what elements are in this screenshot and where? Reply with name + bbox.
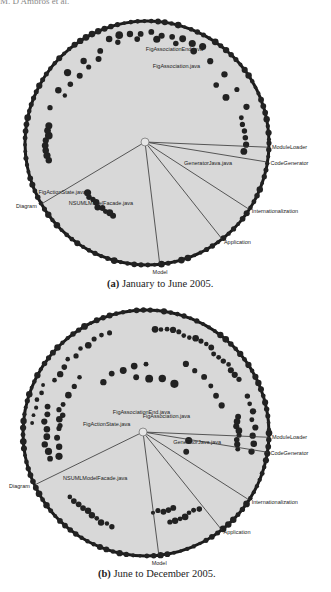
caption-b-text: June to December 2005. [113, 568, 215, 579]
rim-node [264, 406, 269, 411]
file-label: NSUMLModelFacade.java [69, 200, 134, 206]
file-node [170, 327, 176, 333]
file-node [148, 29, 154, 35]
file-node [100, 379, 106, 385]
file-node [247, 401, 252, 406]
file-node [213, 393, 219, 399]
file-node [41, 418, 47, 424]
rim-node [20, 438, 27, 445]
rim-node [218, 43, 223, 48]
module-label: Internationalization [252, 208, 298, 214]
rim-node [52, 61, 56, 65]
rim-node [236, 222, 240, 226]
file-node [77, 73, 83, 79]
rim-node [89, 31, 96, 38]
rim-node [231, 226, 236, 231]
rim-node [215, 531, 220, 536]
rim-node [89, 321, 93, 325]
hub-node [139, 428, 147, 436]
file-node [45, 404, 51, 410]
rim-node [32, 189, 37, 194]
rim-node [108, 24, 114, 30]
rim-node [83, 34, 90, 41]
rim-node [185, 255, 192, 262]
file-node [56, 407, 61, 412]
rim-node [203, 538, 208, 543]
rim-node [31, 95, 36, 100]
rim-node [262, 174, 267, 179]
file-node [183, 361, 189, 367]
rim-node [263, 168, 268, 173]
rim-node [265, 444, 271, 450]
rim-node [251, 199, 256, 204]
file-node [252, 424, 258, 430]
rim-node [138, 262, 143, 267]
rim-node [21, 445, 27, 451]
file-node [198, 338, 203, 343]
rim-node [40, 497, 45, 502]
rim-node [266, 437, 271, 442]
rim-node [134, 308, 140, 314]
rim-node [23, 150, 27, 154]
rim-node [250, 368, 255, 373]
file-label: FigAssociation.java [143, 413, 191, 419]
rim-node [162, 19, 168, 25]
file-node [159, 33, 165, 39]
file-node [120, 367, 127, 374]
rim-node [22, 412, 26, 416]
rim-node [175, 312, 180, 317]
rim-node [68, 527, 74, 533]
file-node [216, 355, 221, 360]
file-node [133, 374, 139, 380]
rim-node [209, 534, 215, 540]
rim-node [254, 193, 259, 198]
file-node [160, 509, 166, 515]
file-label: NSUMLModelFacade.java [63, 475, 128, 481]
file-node [240, 148, 247, 155]
file-node [32, 413, 36, 417]
rim-node [129, 20, 134, 25]
rim-node [208, 36, 212, 40]
file-node [219, 402, 225, 408]
rim-node [250, 79, 254, 83]
rim-node [23, 453, 27, 457]
module-label: Application [224, 239, 251, 245]
file-node [159, 375, 166, 382]
file-node [221, 358, 226, 363]
rim-node [161, 308, 167, 314]
file-node [94, 516, 99, 521]
file-node [234, 87, 239, 92]
rim-node [26, 466, 31, 471]
rim-node [266, 155, 270, 159]
rim-node [30, 386, 34, 390]
rim-node [265, 413, 270, 418]
rim-node [79, 536, 83, 540]
file-node [208, 345, 214, 351]
file-node [236, 377, 241, 382]
rim-node [125, 261, 129, 265]
file-node [115, 31, 123, 39]
file-node [243, 142, 249, 148]
file-node [56, 416, 63, 423]
file-node [191, 508, 196, 513]
module-label: Diagram [9, 483, 30, 489]
rim-node [244, 210, 250, 216]
file-node [45, 448, 52, 455]
file-node [250, 441, 257, 448]
rim-node [36, 490, 43, 497]
module-label: Internationalization [252, 499, 298, 505]
rim-node [243, 501, 250, 508]
file-node [242, 128, 247, 133]
rim-node [233, 57, 238, 62]
rim-node [191, 544, 195, 548]
rim-node [114, 311, 119, 316]
rim-node [50, 350, 56, 356]
rim-node [263, 116, 269, 122]
rim-node [212, 38, 219, 45]
rim-node [257, 186, 263, 192]
rim-node [166, 261, 171, 266]
rim-node [26, 391, 33, 398]
rim-node [44, 72, 49, 77]
file-node [176, 329, 181, 334]
file-node [192, 368, 197, 373]
